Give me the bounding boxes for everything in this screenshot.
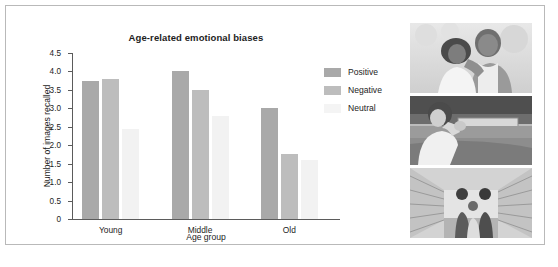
legend-label-negative: Negative bbox=[348, 85, 382, 95]
y-axis-line bbox=[72, 53, 73, 219]
bar-chart: Age-related emotional biases Number of i… bbox=[6, 6, 406, 244]
y-tick-label: 4.5 bbox=[50, 49, 61, 58]
y-tick: 3.0 bbox=[68, 108, 72, 109]
legend-swatch-negative bbox=[324, 86, 341, 95]
legend-swatch-neutral bbox=[324, 104, 341, 113]
bar-young-negative bbox=[102, 79, 119, 219]
bar-old-positive bbox=[261, 108, 278, 219]
legend-item-positive: Positive bbox=[324, 64, 382, 80]
plot-area: 00.51.01.52.02.53.03.54.04.5 YoungMiddle… bbox=[72, 53, 340, 219]
y-tick: 2.5 bbox=[68, 127, 72, 128]
y-tick: 2.0 bbox=[68, 145, 72, 146]
y-tick-label: 3.0 bbox=[50, 104, 61, 113]
legend-swatch-positive bbox=[324, 68, 341, 77]
bar-middle-positive bbox=[172, 71, 189, 219]
y-tick-label: 4.0 bbox=[50, 67, 61, 76]
chart-legend: Positive Negative Neutral bbox=[324, 64, 382, 118]
bar-old-negative bbox=[281, 154, 298, 219]
y-tick: 4.5 bbox=[68, 53, 72, 54]
y-tick: 0 bbox=[68, 219, 72, 220]
photo-column bbox=[410, 23, 532, 241]
y-tick-label: 1.0 bbox=[50, 178, 61, 187]
y-tick-label: 0.5 bbox=[50, 196, 61, 205]
y-tick-label: 0 bbox=[56, 215, 61, 224]
y-tick-label: 3.5 bbox=[50, 85, 61, 94]
bar-young-positive bbox=[82, 81, 99, 219]
photo-family-supermarket bbox=[410, 168, 532, 238]
y-tick: 1.5 bbox=[68, 164, 72, 165]
y-tick: 1.0 bbox=[68, 182, 72, 183]
bar-young-neutral bbox=[122, 129, 139, 219]
photo-older-couple bbox=[410, 23, 532, 93]
figure-frame: Age-related emotional biases Number of i… bbox=[5, 5, 545, 245]
legend-item-neutral: Neutral bbox=[324, 100, 382, 116]
y-tick-label: 2.0 bbox=[50, 141, 61, 150]
legend-label-positive: Positive bbox=[348, 67, 378, 77]
y-tick-label: 2.5 bbox=[50, 122, 61, 131]
photo-woman-outdoors bbox=[410, 96, 532, 165]
y-tick: 4.0 bbox=[68, 71, 72, 72]
bar-middle-negative bbox=[192, 90, 209, 219]
x-axis-line bbox=[72, 219, 340, 220]
chart-title: Age-related emotional biases bbox=[66, 32, 326, 43]
y-axis-label: Number of images recalled bbox=[42, 61, 52, 211]
y-tick: 3.5 bbox=[68, 90, 72, 91]
legend-item-negative: Negative bbox=[324, 82, 382, 98]
bar-middle-neutral bbox=[212, 116, 229, 219]
y-tick: 0.5 bbox=[68, 201, 72, 202]
bar-old-neutral bbox=[301, 160, 318, 219]
legend-label-neutral: Neutral bbox=[348, 103, 376, 113]
x-axis-label: Age group bbox=[72, 232, 340, 242]
y-tick-label: 1.5 bbox=[50, 159, 61, 168]
